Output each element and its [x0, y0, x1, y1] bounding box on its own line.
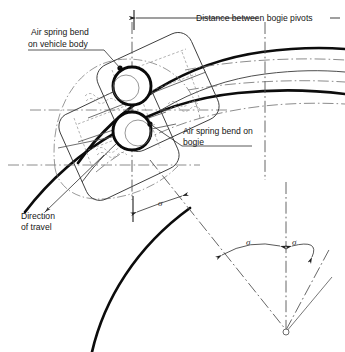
air-spring-body-label-line2: on vehicle body — [28, 39, 88, 49]
angle-lower-left-arc — [222, 244, 280, 255]
bogie-pivot-diagram-svg: Air spring bend on vehicle body Distance… — [0, 0, 345, 352]
pivot-axes-group — [132, 22, 332, 335]
track-group — [25, 48, 345, 352]
angle-lower-left-group — [222, 244, 280, 255]
radial-line-right — [286, 248, 330, 330]
centre-of-curvature-marker — [283, 329, 289, 335]
technical-diagram: Air spring bend on vehicle body Distance… — [0, 0, 345, 352]
distance-between-pivots-label: Distance between bogie pivots — [196, 13, 313, 23]
air-spring-bogie-label-line1: Air spring bend on — [183, 126, 253, 136]
leader-air-spring-body-group — [28, 50, 120, 68]
angle-upper-sigma-label: σ — [158, 198, 163, 208]
radius-line-solid — [286, 277, 332, 332]
spring-coil-lower-2 — [97, 153, 127, 158]
air-spring-bogie-label-line2: bogie — [183, 137, 204, 147]
pivot-circles-group — [113, 65, 153, 150]
inner-rail-arc — [25, 90, 345, 212]
direction-of-travel-label-line1: Direction — [21, 211, 55, 221]
radial-line-left — [150, 160, 286, 330]
air-spring-body-label-line1: Air spring bend — [31, 27, 89, 37]
direction-of-travel-label-line2: of travel — [21, 222, 52, 232]
angle-lower-left-sigma-label: σ — [246, 237, 251, 247]
angle-lower-right-sigma-label: σ — [292, 237, 297, 247]
arc-centerlines-group — [8, 59, 345, 172]
lower-track-edge-arc — [92, 208, 190, 352]
